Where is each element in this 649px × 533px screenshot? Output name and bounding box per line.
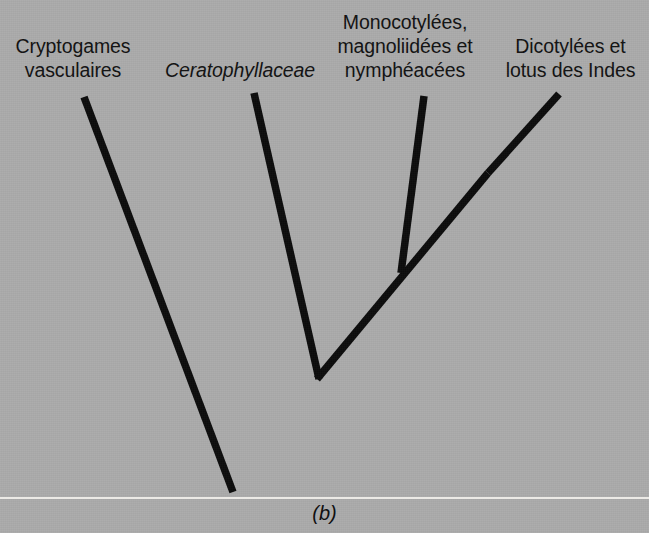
branch-ceratophyllaceae — [254, 93, 319, 379]
branch-dicotylees — [488, 94, 559, 173]
cladogram-figure: Cryptogames vasculaires Ceratophyllaceae… — [0, 0, 649, 533]
branch-cryptogames-vasculaires — [84, 97, 233, 492]
branch-internal-spine — [317, 173, 488, 379]
branch-monocotylees — [401, 96, 424, 273]
figure-divider — [0, 497, 649, 499]
figure-caption: (b) — [0, 502, 649, 525]
cladogram-branches — [0, 0, 649, 533]
